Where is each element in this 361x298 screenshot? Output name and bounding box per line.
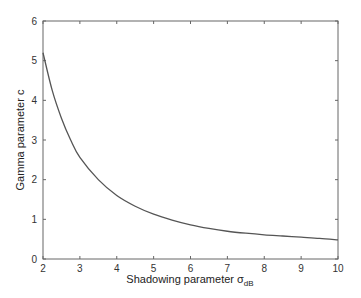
y-tick-label: 4 [31, 95, 37, 106]
x-tick-label: 2 [40, 263, 46, 274]
x-tick-label: 4 [114, 263, 120, 274]
y-tick-label: 2 [31, 174, 37, 185]
y-axis-label: Gamma parameter c [14, 89, 26, 190]
y-tick-label: 3 [31, 135, 37, 146]
chart-canvas: 0123456 2345678910 Shadowing parameter σ… [0, 0, 361, 298]
y-tick-label: 6 [31, 16, 37, 27]
y-tick-label: 1 [31, 214, 37, 225]
x-tick-label: 9 [298, 263, 304, 274]
x-tick-label: 3 [77, 263, 83, 274]
x-tick-label: 8 [261, 263, 267, 274]
x-tick-label: 10 [332, 263, 344, 274]
plot-area [43, 21, 338, 259]
y-tick-label: 0 [31, 254, 37, 265]
y-tick-label: 5 [31, 55, 37, 66]
x-axis-label: Shadowing parameter σdB [126, 273, 253, 288]
